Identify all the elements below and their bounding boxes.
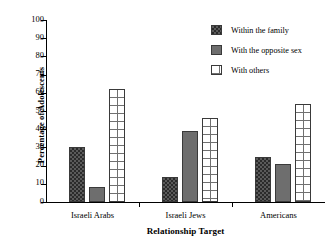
x-axis-title: Relationship Target	[46, 226, 325, 236]
y-axis-tick-label: 0	[40, 196, 44, 206]
y-axis-tick-label: 70	[36, 68, 45, 78]
bar	[255, 157, 271, 203]
legend-item-label: With others	[231, 66, 269, 75]
bar	[89, 187, 105, 202]
legend-swatch-icon	[211, 45, 222, 55]
legend-swatch-icon	[211, 25, 222, 35]
x-axis-group-separator	[232, 202, 233, 207]
y-axis-tick-label: 20	[36, 159, 45, 169]
y-axis-tick-label: 30	[36, 141, 45, 151]
y-axis-tick-label: 50	[36, 105, 45, 115]
legend-item-with-the-opposite-sex: With the opposite sex	[211, 42, 329, 58]
legend-item-with-others: With others	[211, 62, 329, 78]
legend-item-within-the-family: Within the family	[211, 22, 329, 38]
x-axis-group-separator	[139, 202, 140, 207]
legend: Within the family With the opposite sex …	[211, 22, 329, 82]
bar	[202, 118, 218, 202]
y-axis-tick-label: 80	[36, 50, 45, 60]
bar	[109, 89, 125, 202]
y-axis-tick-label: 10	[36, 177, 45, 187]
bar	[182, 131, 198, 202]
legend-swatch-icon	[211, 65, 222, 75]
bar-chart: Percentage of Adolescents 01020304050607…	[0, 0, 333, 249]
legend-item-label: Within the family	[231, 26, 289, 35]
x-axis-group-label: Americans	[232, 210, 325, 220]
bar	[295, 104, 311, 202]
bar	[162, 177, 178, 202]
x-axis-group-label: Israeli Arabs	[46, 210, 139, 220]
bar	[275, 164, 291, 202]
y-axis-tick-label: 100	[31, 14, 44, 24]
x-axis-group-label: Israeli Jews	[139, 210, 232, 220]
y-axis-tick-label: 40	[36, 123, 45, 133]
legend-item-label: With the opposite sex	[231, 46, 302, 55]
y-axis-tick-label: 60	[36, 86, 45, 96]
bar	[69, 147, 85, 202]
y-axis-tick-label: 90	[36, 32, 45, 42]
